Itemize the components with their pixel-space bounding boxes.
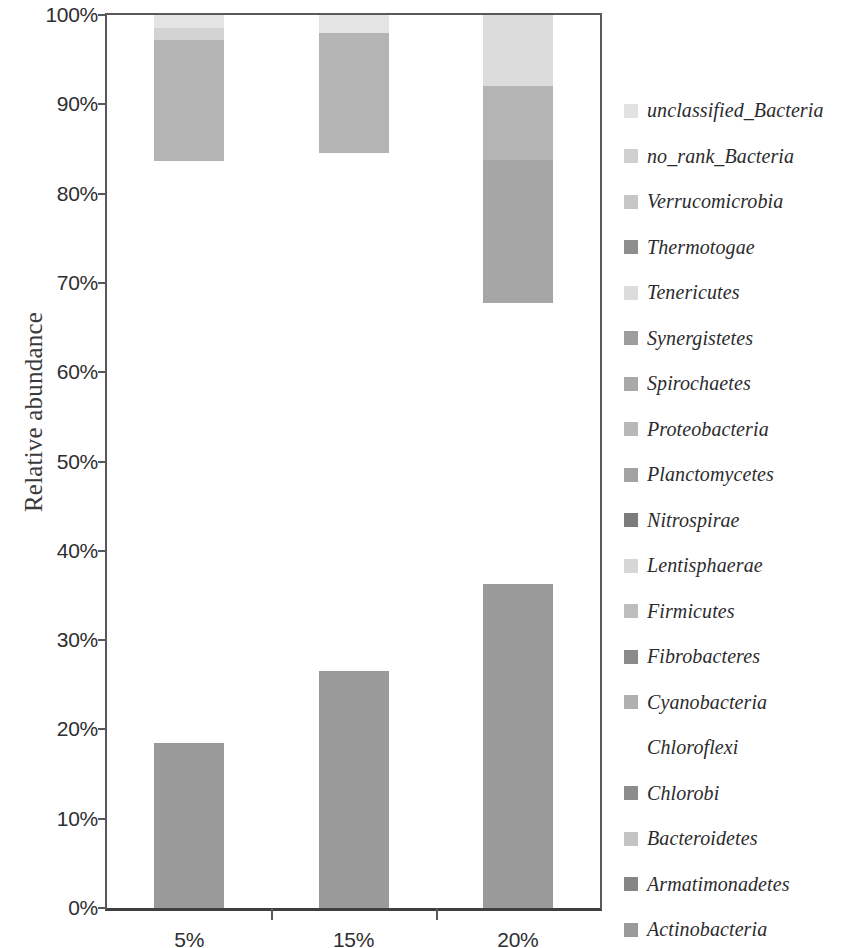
- y-axis-tick-label: 0%: [24, 896, 98, 920]
- stacked-bar-chart-figure: Relative abundance 0%10%20%30%40%50%60%7…: [0, 0, 855, 948]
- legend-item[interactable]: Verrucomicrobia: [624, 179, 855, 225]
- bar-segment[interactable]: [319, 15, 389, 33]
- legend-swatch-icon: [624, 786, 638, 800]
- legend-item-label: Nitrospirae: [647, 509, 740, 532]
- legend-swatch-icon: [624, 377, 638, 391]
- legend-item-label: Proteobacteria: [647, 418, 769, 441]
- y-axis-tick-mark: [98, 193, 107, 195]
- bar-segment[interactable]: [319, 33, 389, 154]
- bar-segment[interactable]: [154, 40, 224, 161]
- legend-item[interactable]: Thermotogae: [624, 225, 855, 271]
- bar-segment[interactable]: [483, 15, 553, 86]
- stacked-bar[interactable]: [154, 15, 224, 908]
- y-axis-title: Relative abundance: [20, 282, 48, 542]
- legend-item-label: Tenericutes: [647, 281, 740, 304]
- legend-item-label: Fibrobacteres: [647, 645, 760, 668]
- stacked-bar[interactable]: [319, 15, 389, 908]
- legend-item-label: Chloroflexi: [647, 736, 738, 759]
- legend-swatch-icon: [624, 149, 638, 163]
- bar-segment[interactable]: [483, 303, 553, 584]
- y-axis-tick-mark: [98, 550, 107, 552]
- bar-segment[interactable]: [154, 15, 224, 28]
- legend-swatch-icon: [624, 923, 638, 937]
- legend-swatch-icon: [624, 695, 638, 709]
- legend-item-label: Actinobacteria: [647, 918, 767, 941]
- legend-item[interactable]: unclassified_Bacteria: [624, 88, 855, 134]
- legend-item-label: Chlorobi: [647, 782, 719, 805]
- bar-segment[interactable]: [483, 86, 553, 159]
- x-axis-tick-mark: [271, 908, 273, 920]
- y-axis-tick-mark: [98, 639, 107, 641]
- x-axis-tick-label: 15%: [299, 928, 409, 948]
- y-axis-tick-mark: [98, 907, 107, 909]
- legend-item-label: Thermotogae: [647, 236, 755, 259]
- legend-item[interactable]: Bacteroidetes: [624, 816, 855, 862]
- y-axis-tick-label: 90%: [24, 92, 98, 116]
- legend-item[interactable]: Lentisphaerae: [624, 543, 855, 589]
- legend-item-label: no_rank_Bacteria: [647, 145, 794, 168]
- y-axis-tick-label: 20%: [24, 717, 98, 741]
- legend-swatch-icon: [624, 286, 638, 300]
- stacked-bar[interactable]: [483, 15, 553, 908]
- y-axis-tick-label: 40%: [24, 539, 98, 563]
- bar-segment[interactable]: [483, 584, 553, 908]
- y-axis-tick-mark: [98, 371, 107, 373]
- legend-item[interactable]: no_rank_Bacteria: [624, 134, 855, 180]
- legend-swatch-icon: [624, 195, 638, 209]
- legend-item[interactable]: Chlorobi: [624, 771, 855, 817]
- legend-item-label: Verrucomicrobia: [647, 190, 783, 213]
- legend-item[interactable]: Tenericutes: [624, 270, 855, 316]
- bar-segment[interactable]: [483, 160, 553, 303]
- y-axis-tick-label: 30%: [24, 628, 98, 652]
- legend-item-label: Firmicutes: [647, 600, 735, 623]
- bar-segment[interactable]: [319, 671, 389, 908]
- legend-swatch-icon: [624, 832, 638, 846]
- legend-item-label: Lentisphaerae: [647, 554, 763, 577]
- legend-item[interactable]: Cyanobacteria: [624, 680, 855, 726]
- y-axis-tick-label: 100%: [24, 3, 98, 27]
- plot-area: 0%10%20%30%40%50%60%70%80%90%100% 5%15%2…: [105, 13, 602, 911]
- legend-item-label: Cyanobacteria: [647, 691, 767, 714]
- bar-segment[interactable]: [319, 153, 389, 671]
- legend-item[interactable]: Fibrobacteres: [624, 634, 855, 680]
- y-axis-tick-mark: [98, 103, 107, 105]
- legend-item[interactable]: Planctomycetes: [624, 452, 855, 498]
- legend-swatch-icon: [624, 650, 638, 664]
- legend-swatch-icon: [624, 104, 638, 118]
- legend-item-label: Bacteroidetes: [647, 827, 758, 850]
- y-axis-tick-label: 80%: [24, 182, 98, 206]
- legend-swatch-icon: [624, 604, 638, 618]
- legend-swatch-icon: [624, 741, 638, 755]
- legend-swatch-icon: [624, 877, 638, 891]
- legend-swatch-icon: [624, 331, 638, 345]
- y-axis-tick-mark: [98, 14, 107, 16]
- y-axis-tick-mark: [98, 728, 107, 730]
- x-axis-tick-mark: [436, 908, 438, 920]
- legend-item[interactable]: Actinobacteria: [624, 907, 855, 948]
- legend-item[interactable]: Proteobacteria: [624, 407, 855, 453]
- x-axis-tick-label: 20%: [463, 928, 573, 948]
- legend-item-label: unclassified_Bacteria: [647, 99, 824, 122]
- y-axis-tick-label: 10%: [24, 807, 98, 831]
- legend-item[interactable]: Spirochaetes: [624, 361, 855, 407]
- x-axis-tick-label: 5%: [134, 928, 244, 948]
- legend-item-label: Spirochaetes: [647, 372, 751, 395]
- y-axis-tick-mark: [98, 818, 107, 820]
- bar-segment[interactable]: [154, 28, 224, 40]
- legend-item[interactable]: Nitrospirae: [624, 498, 855, 544]
- legend-item[interactable]: Synergistetes: [624, 316, 855, 362]
- y-axis-tick-label: 70%: [24, 271, 98, 295]
- legend-item-label: Planctomycetes: [647, 463, 774, 486]
- legend-swatch-icon: [624, 240, 638, 254]
- y-axis-tick-label: 60%: [24, 360, 98, 384]
- legend-item[interactable]: Firmicutes: [624, 589, 855, 635]
- legend-item[interactable]: Armatimonadetes: [624, 862, 855, 908]
- y-axis-tick-label: 50%: [24, 450, 98, 474]
- bar-segment[interactable]: [154, 161, 224, 743]
- y-axis-tick-mark: [98, 282, 107, 284]
- legend-item-label: Synergistetes: [647, 327, 753, 350]
- y-axis-tick-mark: [98, 461, 107, 463]
- legend-swatch-icon: [624, 468, 638, 482]
- legend-item[interactable]: Chloroflexi: [624, 725, 855, 771]
- bar-segment[interactable]: [154, 743, 224, 908]
